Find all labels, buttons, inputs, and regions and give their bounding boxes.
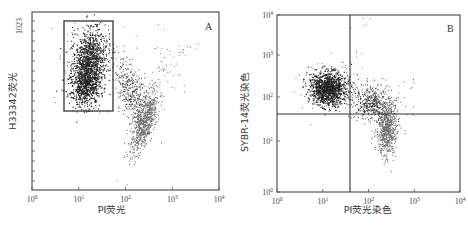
data-point: [91, 105, 92, 106]
data-point: [330, 82, 331, 83]
data-point: [161, 69, 162, 70]
data-point: [109, 80, 110, 81]
data-point: [138, 117, 139, 118]
data-point: [79, 83, 80, 84]
data-point: [311, 83, 312, 84]
data-point: [95, 99, 96, 100]
data-point: [369, 120, 370, 121]
data-point: [134, 152, 135, 153]
data-point: [123, 100, 124, 101]
data-point: [340, 104, 341, 105]
data-point: [326, 97, 327, 98]
data-point: [99, 59, 100, 60]
data-point: [90, 47, 91, 48]
data-point: [115, 80, 116, 81]
data-point: [147, 127, 148, 128]
data-point: [379, 116, 380, 117]
data-point: [137, 121, 138, 122]
data-point: [76, 60, 77, 61]
data-point: [86, 81, 87, 82]
data-point: [355, 85, 356, 86]
data-point: [379, 96, 380, 97]
data-point: [127, 82, 128, 83]
data-point: [133, 101, 134, 102]
data-point: [330, 90, 331, 91]
data-point: [393, 133, 394, 134]
data-point: [372, 131, 373, 132]
data-point: [326, 100, 327, 101]
data-point: [336, 99, 337, 100]
data-point: [163, 96, 164, 97]
data-point: [137, 100, 138, 101]
data-point: [136, 95, 137, 96]
data-point: [142, 100, 143, 101]
data-point: [386, 151, 387, 152]
data-point: [386, 127, 387, 128]
data-point: [160, 82, 161, 83]
data-point: [93, 38, 94, 39]
data-point: [383, 122, 384, 123]
data-point: [101, 33, 102, 34]
data-point: [122, 58, 123, 59]
data-point: [145, 97, 146, 98]
data-point: [121, 67, 122, 68]
data-point: [122, 92, 123, 93]
data-point: [80, 57, 81, 58]
data-point: [315, 102, 316, 103]
data-point: [379, 101, 380, 102]
data-point: [148, 132, 149, 133]
data-point: [398, 124, 399, 125]
data-point: [122, 85, 123, 86]
data-point: [141, 105, 142, 106]
data-point: [361, 107, 362, 108]
data-point: [304, 96, 305, 97]
data-point: [117, 181, 118, 182]
data-point: [143, 141, 144, 142]
data-point: [313, 88, 314, 89]
data-point: [79, 74, 80, 75]
data-point: [84, 69, 85, 70]
data-point: [393, 150, 394, 151]
data-point: [390, 139, 391, 140]
data-point: [366, 105, 367, 106]
data-point: [321, 86, 322, 87]
data-point: [347, 94, 348, 95]
data-point: [127, 73, 128, 74]
data-point: [95, 59, 96, 60]
data-point: [140, 124, 141, 125]
data-point: [139, 122, 140, 123]
data-point: [124, 95, 125, 96]
data-point: [132, 146, 133, 147]
x-tick-label: 100: [272, 196, 283, 206]
data-point: [353, 82, 354, 83]
data-point: [149, 118, 150, 119]
data-point: [135, 113, 136, 114]
data-point: [127, 184, 128, 185]
data-point: [131, 70, 132, 71]
data-point: [387, 146, 388, 147]
data-point: [396, 116, 397, 117]
data-point: [377, 134, 378, 135]
data-point: [73, 56, 74, 57]
data-point: [139, 133, 140, 134]
data-point: [144, 113, 145, 114]
data-point: [373, 95, 374, 96]
data-point: [157, 101, 158, 102]
data-point: [370, 98, 371, 99]
data-point: [303, 86, 304, 87]
data-point: [394, 139, 395, 140]
data-point: [90, 69, 91, 70]
data-point: [91, 89, 92, 90]
data-point: [106, 56, 107, 57]
data-point: [389, 124, 390, 125]
data-point: [134, 114, 135, 115]
data-point: [159, 71, 160, 72]
data-point: [88, 84, 89, 85]
data-point: [123, 84, 124, 85]
data-point: [390, 116, 391, 117]
data-point: [326, 84, 327, 85]
data-point: [92, 45, 93, 46]
data-point: [340, 93, 341, 94]
data-point: [405, 133, 406, 134]
data-point: [125, 98, 126, 99]
